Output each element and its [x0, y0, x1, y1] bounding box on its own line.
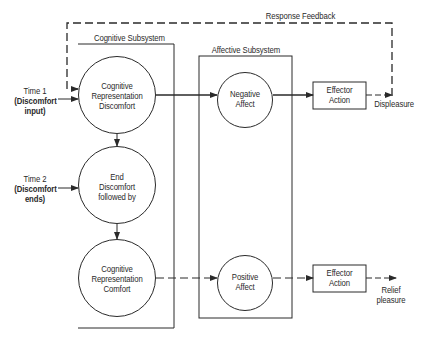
- node3-line1: Cognitive: [87, 264, 146, 274]
- effector1-line2: Action: [318, 95, 360, 105]
- node2-line1: End: [87, 172, 146, 182]
- node3-line3: Comfort: [87, 284, 146, 294]
- positive-affect-line1: Positive: [224, 272, 265, 282]
- node2-label: End Discomfort followed by: [87, 172, 146, 202]
- node1-line3: Discomfort: [87, 101, 146, 111]
- effector1-line1: Effector: [318, 85, 360, 95]
- effector1-label: Effector Action: [318, 85, 360, 105]
- node3-line2: Representation: [87, 274, 146, 284]
- cognitive-subsystem-label: Cognitive Subsystem: [94, 33, 165, 43]
- relief-line1: Relief: [376, 285, 407, 295]
- time1-label: Time 1 (Discomfort input): [14, 86, 55, 116]
- relief-label: Relief pleasure: [376, 285, 407, 305]
- time2-label: Time 2 (Discomfort ends): [14, 174, 55, 204]
- negative-affect-label: Negative Affect: [224, 89, 265, 109]
- time2-line1: Time 2: [14, 174, 55, 184]
- node1-label: Cognitive Representation Discomfort: [87, 81, 146, 111]
- node2-line2: Discomfort: [87, 182, 146, 192]
- effector2-line2: Action: [318, 278, 360, 288]
- time1-line3: input): [14, 106, 55, 116]
- effector2-label: Effector Action: [318, 268, 360, 288]
- displeasure-label: Displeasure: [374, 99, 414, 109]
- affective-subsystem-label: Affective Subsystem: [212, 45, 280, 55]
- feedback-label: Response Feedback: [266, 11, 335, 21]
- node1-line2: Representation: [87, 91, 146, 101]
- node3-label: Cognitive Representation Comfort: [87, 264, 146, 294]
- time1-line1: Time 1: [14, 86, 55, 96]
- node2-line3: followed by: [87, 192, 146, 202]
- positive-affect-line2: Affect: [224, 282, 265, 292]
- positive-affect-label: Positive Affect: [224, 272, 265, 292]
- time2-line2: (Discomfort: [14, 184, 55, 194]
- node1-line1: Cognitive: [87, 81, 146, 91]
- negative-affect-line2: Affect: [224, 99, 265, 109]
- time2-line3: ends): [14, 194, 55, 204]
- effector2-line1: Effector: [318, 268, 360, 278]
- negative-affect-line1: Negative: [224, 89, 265, 99]
- relief-line2: pleasure: [376, 295, 407, 305]
- time1-line2: (Discomfort: [14, 96, 55, 106]
